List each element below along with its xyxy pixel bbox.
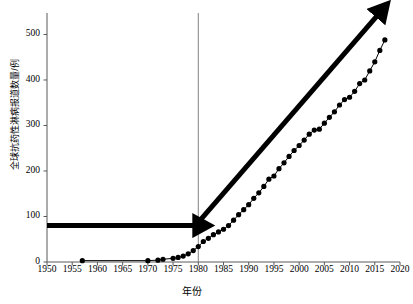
y-axis-label: 全球抗药性淋病报道数量/例 [8, 15, 21, 215]
data-point [292, 148, 297, 153]
y-tick-label: 300 [14, 119, 40, 129]
data-point [201, 239, 206, 244]
annotations-layer [47, 13, 380, 262]
data-point [206, 236, 211, 241]
data-point [372, 59, 377, 64]
data-point [231, 218, 236, 223]
data-point [332, 109, 337, 114]
data-point [176, 255, 181, 260]
data-point [337, 102, 342, 107]
y-tick-label: 500 [14, 28, 40, 38]
data-point [80, 258, 85, 263]
data-point [297, 143, 302, 148]
data-point [327, 115, 332, 120]
data-point [266, 177, 271, 182]
y-tick-label: 400 [14, 74, 40, 84]
y-tick-label: 0 [14, 256, 40, 266]
data-point [170, 256, 175, 261]
data-point [276, 166, 281, 171]
data-point [362, 77, 367, 82]
data-point [377, 48, 382, 53]
data-point [312, 127, 317, 132]
y-tick-label: 200 [14, 165, 40, 175]
data-point [241, 207, 246, 212]
data-point [186, 251, 191, 256]
data-point [221, 227, 226, 232]
data-point [317, 127, 322, 132]
data-point [281, 160, 286, 165]
data-point [382, 37, 387, 42]
data-point [211, 232, 216, 237]
data-point [347, 95, 352, 100]
data-point [342, 97, 347, 102]
data-point [155, 258, 160, 263]
x-axis-label-text: 年份 [182, 286, 202, 297]
data-point [271, 173, 276, 178]
data-point [261, 184, 266, 189]
x-tick-label: 2020 [385, 264, 413, 274]
data-point [145, 258, 150, 263]
data-point [181, 253, 186, 258]
data-point [307, 132, 312, 137]
data-point [216, 229, 221, 234]
chart-canvas [0, 0, 413, 304]
data-point [251, 196, 256, 201]
data-point [357, 81, 362, 86]
x-axis-label: 年份 [0, 283, 413, 298]
data-point [236, 212, 241, 217]
data-point [286, 154, 291, 159]
data-point [256, 190, 261, 195]
data-point [226, 223, 231, 228]
chart-figure: 全球抗药性淋病报道数量/例 年份 19501955196019651970197… [0, 0, 413, 304]
data-point [367, 68, 372, 73]
data-point [160, 257, 165, 262]
data-point [302, 137, 307, 142]
data-point [246, 202, 251, 207]
diagonal-trend-arrow [198, 13, 380, 223]
data-point [352, 89, 357, 94]
data-series-layer [80, 37, 388, 263]
data-point [196, 244, 201, 249]
data-point [322, 121, 327, 126]
data-point [191, 248, 196, 253]
y-tick-label: 100 [14, 210, 40, 220]
